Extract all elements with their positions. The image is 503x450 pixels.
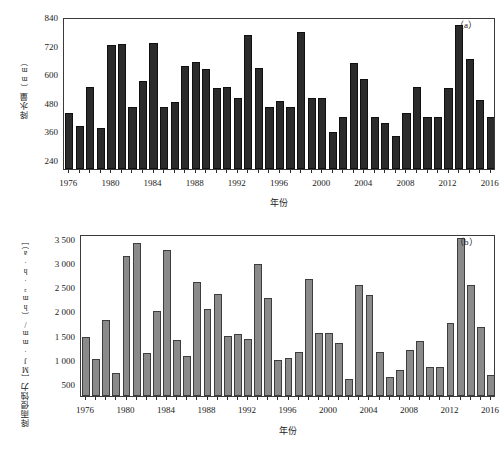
bar-1984 — [149, 43, 157, 169]
bar-1986 — [171, 102, 179, 169]
bar-2005 — [376, 352, 384, 396]
x-tick-label-2004: 2004 — [359, 405, 377, 415]
x-tick-mark — [490, 397, 491, 400]
x-tick-mark — [298, 397, 299, 400]
y-tick-label-480: 480 — [0, 99, 58, 109]
bar-2004 — [360, 79, 368, 169]
x-tick-label-2008: 2008 — [396, 178, 414, 188]
x-tick-label-1988: 1988 — [186, 178, 204, 188]
x-tick-mark — [95, 397, 96, 400]
x-tick-mark — [363, 170, 364, 173]
bar-2007 — [396, 370, 404, 396]
x-tick-mark — [153, 170, 154, 173]
bar-2016 — [487, 375, 495, 396]
bar-1981 — [118, 44, 126, 169]
bar-1979 — [112, 373, 120, 396]
bar-1999 — [315, 333, 323, 396]
bar-1990 — [224, 336, 232, 396]
x-tick-mark — [237, 397, 238, 400]
bar-1998 — [297, 32, 305, 169]
bar-1992 — [244, 339, 252, 396]
bar-1995 — [274, 360, 282, 396]
x-tick-label-1996: 1996 — [270, 178, 288, 188]
bar-2010 — [426, 367, 434, 396]
bar-1996 — [276, 101, 284, 169]
bar-2011 — [434, 117, 442, 169]
y-tick-label-500: 500 — [0, 380, 75, 390]
bar-2015 — [476, 100, 484, 169]
x-tick-label-2012: 2012 — [439, 178, 457, 188]
bar-2011 — [436, 367, 444, 396]
bar-1983 — [139, 81, 147, 169]
y-tick-label-3000: 3 000 — [0, 259, 75, 269]
x-tick-mark — [409, 397, 410, 400]
bar-1996 — [285, 358, 293, 396]
bar-2003 — [355, 285, 363, 396]
x-tick-mark — [395, 170, 396, 173]
chart-panel-b: 降雨侵蚀力［MJ·mm/（hm²·h·a）］ 5001 0001 5002 00… — [0, 225, 503, 450]
x-axis-title-a: 年份 — [270, 196, 288, 209]
x-tick-label-1984: 1984 — [144, 178, 162, 188]
x-tick-mark — [100, 170, 101, 173]
x-tick-mark — [470, 397, 471, 400]
x-tick-mark — [216, 170, 217, 173]
bar-1982 — [128, 107, 136, 169]
x-tick-mark — [146, 397, 147, 400]
x-tick-label-1976: 1976 — [59, 178, 77, 188]
bar-2000 — [325, 333, 333, 396]
x-tick-mark — [374, 170, 375, 173]
x-tick-label-1984: 1984 — [157, 405, 175, 415]
bar-2008 — [406, 350, 414, 396]
x-tick-mark — [277, 397, 278, 400]
x-tick-mark — [136, 397, 137, 400]
bar-2004 — [366, 295, 374, 396]
x-tick-mark — [186, 397, 187, 400]
bar-1978 — [86, 87, 94, 169]
x-tick-mark — [105, 397, 106, 400]
bar-1981 — [133, 243, 141, 396]
x-tick-label-1996: 1996 — [279, 405, 297, 415]
bar-2013 — [455, 25, 463, 169]
x-tick-mark — [458, 170, 459, 173]
x-tick-mark — [311, 170, 312, 173]
bar-2008 — [402, 113, 410, 169]
x-tick-mark — [480, 397, 481, 400]
bar-2003 — [350, 63, 358, 169]
x-tick-mark — [342, 170, 343, 173]
bar-1977 — [76, 126, 84, 169]
x-tick-mark — [290, 170, 291, 173]
x-tick-mark — [126, 397, 127, 400]
x-tick-label-1992: 1992 — [238, 405, 256, 415]
x-tick-label-2016: 2016 — [481, 178, 499, 188]
bar-2010 — [423, 117, 431, 169]
bar-1988 — [204, 309, 212, 396]
bar-2012 — [444, 88, 452, 169]
y-tick-label-840: 840 — [0, 13, 58, 23]
bar-2016 — [487, 117, 495, 169]
y-tick-label-360: 360 — [0, 127, 58, 137]
x-tick-mark — [174, 170, 175, 173]
bar-1993 — [254, 264, 262, 397]
x-tick-mark — [338, 397, 339, 400]
y-axis-title-a: 降水量（mm） — [20, 58, 30, 119]
bar-1984 — [163, 250, 171, 396]
x-tick-mark — [368, 397, 369, 400]
x-tick-mark — [268, 170, 269, 173]
x-tick-mark — [353, 170, 354, 173]
x-tick-mark — [163, 170, 164, 173]
bar-1985 — [160, 107, 168, 169]
x-tick-mark — [247, 170, 248, 173]
y-tick-label-1500: 1 500 — [0, 332, 75, 342]
x-tick-mark — [156, 397, 157, 400]
chart-panel-a: 降水量（mm） 240360480600720840 1976198019841… — [0, 0, 503, 225]
y-tick-label-2000: 2 000 — [0, 307, 75, 317]
x-tick-label-1992: 1992 — [228, 178, 246, 188]
x-tick-mark — [247, 397, 248, 400]
x-tick-mark — [279, 170, 280, 173]
x-tick-mark — [379, 397, 380, 400]
bar-2002 — [345, 379, 353, 396]
plot-area-a — [63, 18, 495, 170]
bar-1976 — [65, 113, 73, 169]
bar-2014 — [467, 285, 475, 396]
x-tick-mark — [389, 397, 390, 400]
